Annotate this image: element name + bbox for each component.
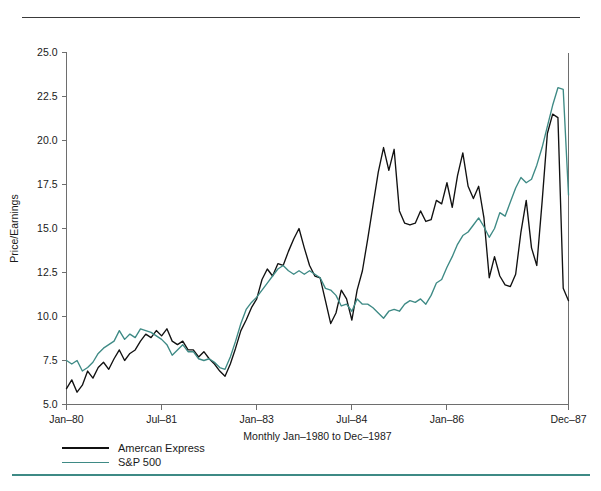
y-tick-label: 7.5 [43,354,58,366]
series-line-sp500 [67,88,569,371]
legend-label-sp500: S&P 500 [118,456,161,469]
y-tick-label: 12.5 [37,266,58,278]
legend-label-amex: Amercan Express [118,442,205,455]
x-tick-label: Jan–83 [240,413,275,425]
series-line-amex [67,114,569,392]
legend-swatch-amex [62,447,109,449]
x-tick-label: Dec–87 [550,413,586,425]
y-tick-label: 15.0 [37,222,58,234]
axis-labels-layer: 5.07.510.012.515.017.520.022.525.0Jan–80… [8,46,587,441]
chart-figure: 5.07.510.012.515.017.520.022.525.0Jan–80… [0,0,601,491]
y-tick-label: 20.0 [37,134,58,146]
y-tick-label: 17.5 [37,178,58,190]
footer-rule [12,474,590,476]
y-tick-label: 10.0 [37,310,58,322]
legend-swatch-sp500 [62,462,109,463]
x-tick-label: Jul–84 [336,413,367,425]
x-tick-label: Jan–86 [430,413,465,425]
x-axis-title: Monthly Jan–1980 to Dec–1987 [243,430,391,442]
y-tick-label: 22.5 [37,90,58,102]
x-tick-label: Jan–80 [49,413,84,425]
x-tick-label: Jul–81 [146,413,177,425]
y-axis-title: Price/Earnings [8,194,20,262]
plot-axes [67,53,569,405]
legend-item-sp500[interactable]: S&P 500 [62,455,362,469]
y-tick-label: 5.0 [43,398,58,410]
chart-legend: Amercan Express S&P 500 [62,441,362,469]
series-layer [67,88,569,392]
price-earnings-line-chart: 5.07.510.012.515.017.520.022.525.0Jan–80… [0,0,601,491]
legend-item-amex[interactable]: Amercan Express [62,441,362,455]
y-tick-label: 25.0 [37,46,58,58]
